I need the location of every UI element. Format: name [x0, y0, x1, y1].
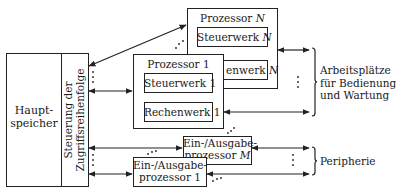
arith-unit-n-text: enwerk	[226, 64, 266, 76]
main-memory-label-line1: Haupt-	[15, 104, 53, 117]
processor-n-title: Prozessor N	[187, 12, 278, 24]
workstations-line1: Arbeitsplätze	[320, 64, 391, 76]
main-memory-label-line2: speicher	[10, 117, 58, 130]
processor-1-title: Prozessor 1	[133, 58, 224, 70]
control-unit-n-index: N	[263, 31, 272, 43]
processor-n-title-text: Prozessor	[200, 12, 252, 24]
arith-unit-n-index: N	[269, 64, 278, 76]
arith-unit-1-label: Rechenwerk 1	[144, 106, 213, 118]
control-unit-1-label: Steuerwerk 1	[144, 77, 213, 89]
io-processor-m-index: M	[240, 149, 251, 161]
control-unit-n-text: Steuerwerk	[197, 31, 259, 43]
main-memory-label: Haupt- speicher	[6, 104, 62, 130]
peripherals-label: Peripherie	[320, 155, 375, 167]
io-processor-m-line1: Ein-/Ausgabe-	[183, 137, 257, 149]
workstations-line2: für Bedienung	[320, 77, 396, 89]
io-processor-1-label: Ein-/Ausgabe- prozessor 1	[133, 160, 207, 183]
io-processor-1-line1: Ein-/Ausgabe-	[133, 159, 207, 171]
access-control-label-line1: Steuerung der	[62, 81, 74, 158]
io-processor-1-line2: prozessor 1	[139, 171, 201, 183]
access-control-label: Steuerung der Zugriffsreihenfolge	[63, 59, 86, 181]
access-control-label-line2: Zugriffsreihenfolge	[74, 69, 86, 172]
workstations-label: Arbeitsplätze für Bedienung und Wartung	[320, 64, 396, 102]
control-unit-n-label: Steuerwerk N	[197, 31, 268, 43]
processor-n-index: N	[256, 12, 265, 24]
arith-unit-n-label: enwerk N	[226, 64, 278, 76]
workstations-line3: und Wartung	[320, 89, 389, 101]
